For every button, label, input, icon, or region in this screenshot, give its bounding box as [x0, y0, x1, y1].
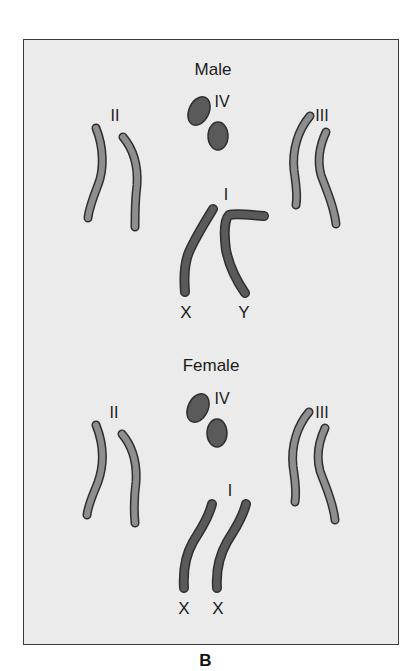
male-label-II: II [111, 107, 120, 124]
male-title: Male [195, 60, 232, 79]
female-chromosome-pair-I [184, 504, 246, 588]
female-sex-label-x1: X [178, 599, 189, 618]
male-chromosome-pair-I [184, 209, 264, 293]
female-label-II: II [110, 404, 119, 421]
male-label-IV: IV [214, 93, 229, 110]
male-panel: Male II IV III I X [88, 60, 336, 322]
male-sex-label-x: X [180, 303, 191, 322]
male-chromosome-pair-III [294, 116, 336, 224]
female-chromosome-pair-III [293, 412, 335, 520]
female-chromosome-pair-II [87, 425, 136, 523]
male-sex-label-y: Y [238, 303, 249, 322]
female-label-IV: IV [214, 390, 229, 407]
female-label-III: III [315, 404, 328, 421]
karyotype-diagram: Male II IV III I X [0, 0, 411, 671]
female-label-I: I [228, 482, 232, 499]
male-label-I: I [224, 186, 228, 203]
male-chromosome-pair-II [88, 128, 137, 227]
female-title: Female [183, 356, 240, 375]
female-panel: Female II IV III I [87, 356, 335, 618]
male-label-III: III [315, 107, 328, 124]
figure-caption: B [0, 651, 411, 671]
female-sex-label-x2: X [212, 599, 223, 618]
